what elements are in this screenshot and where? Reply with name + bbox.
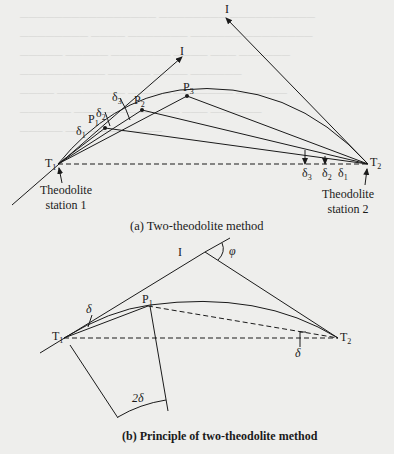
point-p1 (103, 126, 107, 130)
label-p1-b: P1 (142, 292, 153, 308)
label-delta2-t2: δ2 (322, 166, 332, 182)
label-delta1-t1: δ1 (76, 124, 86, 140)
caption-a: (a) Two-theodolite method (130, 219, 264, 234)
label-delta3-t2: δ3 (302, 166, 312, 182)
tangent-line-t1-i (12, 57, 182, 205)
dashed-b-p1-t2 (148, 306, 338, 338)
delta-b-t2-mark (300, 331, 306, 338)
tangent-b-i-t2 (205, 252, 338, 338)
label-p3: P3 (183, 80, 194, 96)
station2-pointer (365, 169, 367, 185)
label-t2-b: T2 (340, 330, 351, 346)
label-i-b: I (178, 245, 182, 260)
tangent-b-extension (205, 238, 230, 252)
label-delta-b: δ (86, 302, 92, 317)
label-2delta: 2δ (132, 391, 144, 406)
sight-t2-p2 (142, 110, 368, 164)
sight-t2-p1 (105, 128, 368, 164)
label-p2: P2 (134, 93, 145, 109)
station2-label: Theodolite station 2 (322, 187, 374, 217)
label-phi: φ (229, 244, 236, 259)
station1-label: Theodolite station 1 (40, 183, 92, 213)
label-delta-b-t2: δ (295, 346, 301, 361)
tangent-line-t2-i (226, 18, 368, 164)
station1-pointer (59, 168, 62, 183)
chord-b-t1-p1 (64, 306, 148, 338)
label-t1-a: T1 (45, 156, 56, 172)
curve-b (64, 301, 338, 338)
radius-b-2 (150, 306, 168, 411)
label-delta3-t1: δ3 (112, 90, 122, 106)
label-t1-b: T1 (52, 329, 63, 345)
label-t2-a: T2 (370, 155, 381, 171)
label-delta1-t2: δ1 (338, 166, 348, 182)
sight-t2-p3 (187, 96, 368, 164)
radius-b-1 (70, 345, 118, 418)
caption-b: (b) Principle of two-theodolite method (122, 429, 317, 444)
arc-phi (218, 243, 223, 260)
label-i-left: I (180, 44, 184, 59)
label-delta2-t1: δ2 (96, 106, 106, 122)
label-i-right: I (225, 2, 229, 17)
